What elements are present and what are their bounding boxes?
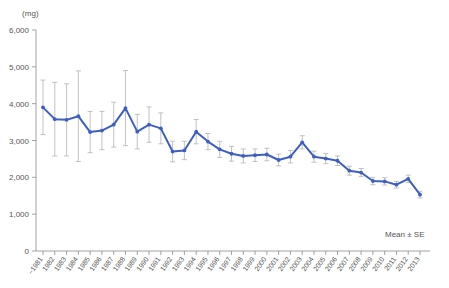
series-data-point <box>88 130 92 134</box>
series-data-point <box>65 118 69 122</box>
mean-se-annotation: Mean ± SE <box>385 230 425 239</box>
y-tick-label: 3,000 <box>9 137 30 146</box>
y-tick-label: 2,000 <box>9 173 30 182</box>
series-data-point <box>359 171 363 175</box>
y-tick-label: 5,000 <box>9 63 30 72</box>
series-data-point <box>289 155 293 159</box>
x-axis-label-group: ~198119821983198419851986198719881989199… <box>27 255 421 275</box>
series-data-point <box>206 140 210 144</box>
chart-container: (mg) 01,0002,0003,0004,0005,0006,000 ~19… <box>0 0 449 288</box>
series-data-point <box>265 153 269 157</box>
series-data-point <box>218 147 222 151</box>
x-axis-tick-group <box>43 251 420 255</box>
x-tick-label: 2010 <box>371 255 386 272</box>
y-tick-label: 1,000 <box>9 210 30 219</box>
series-data-point <box>100 129 104 133</box>
series-data-point <box>182 149 186 153</box>
series-data-point <box>76 114 80 118</box>
series-data-point <box>135 130 139 134</box>
y-tick-label: 0 <box>25 247 30 256</box>
y-tick-label: 4,000 <box>9 100 30 109</box>
series-data-point <box>300 140 304 144</box>
series-data-point <box>395 183 399 187</box>
line-chart-plot: 01,0002,0003,0004,0005,0006,000 ~1981198… <box>0 0 449 288</box>
x-tick-label: 2013 <box>406 255 421 272</box>
series-data-point <box>406 177 410 181</box>
y-tick-label: 6,000 <box>9 26 30 35</box>
series-data-point <box>371 179 375 183</box>
series-data-point <box>230 152 234 156</box>
series-data-point <box>383 179 387 183</box>
series-data-point <box>124 106 128 110</box>
y-axis-tick-group: 01,0002,0003,0004,0005,0006,000 <box>9 26 36 256</box>
series-data-point <box>41 105 45 109</box>
series-data-point <box>312 155 316 159</box>
series-data-point <box>159 126 163 130</box>
error-bar-group <box>41 71 423 198</box>
series-data-point <box>112 123 116 127</box>
series-data-point <box>53 117 57 121</box>
series-data-point <box>194 130 198 134</box>
series-data-point <box>147 123 151 127</box>
x-tick-label: ~1981 <box>27 255 44 275</box>
series-data-point <box>171 150 175 154</box>
series-data-point <box>324 157 328 161</box>
series-data-point <box>241 154 245 158</box>
series-data-point <box>347 169 351 173</box>
series-data-point <box>336 159 340 163</box>
series-data-point <box>253 153 257 157</box>
series-data-point <box>277 158 281 162</box>
series-data-point <box>418 193 422 197</box>
